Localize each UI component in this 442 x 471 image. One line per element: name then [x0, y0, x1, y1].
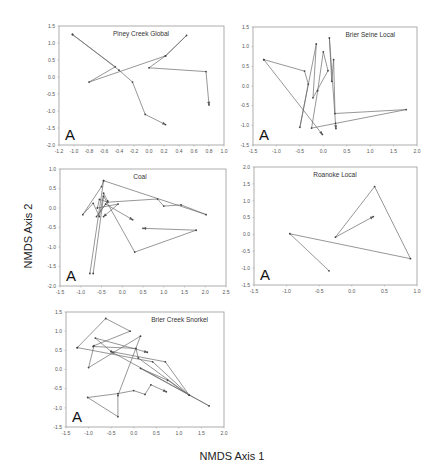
panel-brier-seine-local: -1.5-1.0-0.50.00.51.01.52.01.51.00.50.0-… — [240, 24, 420, 154]
y-tick-label: 1.0 — [48, 40, 55, 46]
data-point — [103, 192, 105, 194]
data-point — [152, 361, 154, 363]
x-tick-label: -0.2 — [130, 148, 139, 154]
data-point — [96, 216, 98, 218]
data-point — [117, 393, 119, 395]
data-point — [133, 390, 135, 392]
data-point — [327, 70, 329, 72]
data-point — [167, 379, 169, 381]
x-tick-label: 2.0 — [414, 148, 421, 154]
y-tick-label: -0.5 — [46, 91, 55, 97]
x-tick-label: 1.0 — [175, 430, 182, 436]
panel-title: Roanoke Local — [313, 171, 357, 178]
data-point — [72, 34, 74, 36]
y-tick-label: -2.0 — [47, 283, 56, 289]
y-tick-label: 1.5 — [242, 24, 249, 30]
x-tick-label: 0.5 — [140, 289, 147, 295]
x-tick-label: 0.0 — [119, 289, 126, 295]
data-point — [117, 203, 119, 205]
data-point — [103, 180, 105, 182]
data-point — [129, 330, 131, 332]
data-point — [188, 394, 190, 396]
data-point — [165, 55, 167, 57]
x-tick-label: -1.2 — [55, 148, 64, 154]
x-tick-label: 0.5 — [153, 430, 160, 436]
x-tick-label: 0.8 — [206, 148, 213, 154]
data-point — [87, 397, 89, 399]
data-point — [299, 126, 301, 128]
y-tick-label: -1.0 — [53, 405, 62, 411]
x-tick-label: -0.5 — [107, 430, 116, 436]
panel-title: Coal — [133, 173, 147, 180]
data-point — [117, 416, 119, 418]
data-point — [410, 258, 412, 260]
x-tick-label: -1.0 — [76, 289, 85, 295]
data-point — [88, 81, 90, 83]
y-tick-label: -2.0 — [46, 142, 55, 148]
y-tick-label: 1.5 — [55, 309, 62, 315]
data-point — [118, 69, 120, 71]
x-axis-label: NMDS Axis 1 — [200, 450, 265, 462]
y-tick-label: 0.0 — [49, 205, 56, 211]
panel-letter: A — [260, 266, 270, 283]
data-point — [180, 204, 182, 206]
x-tick-label: 2.0 — [221, 430, 228, 436]
data-point — [99, 216, 101, 218]
x-tick-label: 2.0 — [202, 289, 209, 295]
panel-title: Brier Seine Local — [346, 31, 396, 38]
x-tick-label: 0.5 — [343, 148, 350, 154]
x-tick-label: -1.0 — [272, 148, 281, 154]
data-point — [328, 270, 330, 272]
data-point — [144, 394, 146, 396]
y-tick-label: -0.5 — [241, 248, 250, 254]
data-point — [92, 273, 94, 275]
data-point — [335, 236, 337, 238]
panel-coal: -1.5-1.0-0.50.00.51.01.52.02.51.00.50.0-… — [47, 166, 229, 295]
data-point — [208, 405, 210, 407]
panel-roanoke-local: -1.5-1.0-0.50.00.51.02.01.51.00.50.0-0.5… — [241, 164, 420, 294]
data-point — [312, 97, 314, 99]
data-point — [195, 229, 197, 231]
y-tick-label: -1.0 — [241, 265, 250, 271]
y-tick-label: -1.5 — [241, 282, 250, 288]
data-point — [105, 203, 107, 205]
data-point — [322, 51, 324, 53]
y-tick-label: 1.5 — [243, 181, 250, 187]
plot-frame — [66, 312, 224, 427]
x-tick-label: -1.0 — [282, 288, 291, 294]
y-tick-label: -1.5 — [46, 125, 55, 131]
x-tick-label: 1.5 — [181, 289, 188, 295]
x-tick-label: 1.5 — [390, 148, 397, 154]
x-tick-label: 0.0 — [320, 148, 327, 154]
panel-letter: A — [65, 126, 75, 143]
y-tick-label: 0.0 — [242, 83, 249, 89]
x-tick-label: 0.0 — [130, 430, 137, 436]
data-point — [164, 361, 166, 363]
y-tick-label: 1.5 — [48, 23, 55, 29]
data-point — [89, 273, 91, 275]
y-tick-label: -1.5 — [47, 263, 56, 269]
data-point — [101, 186, 103, 188]
panel-letter: A — [72, 408, 82, 425]
data-point — [96, 207, 98, 209]
y-tick-label: -1.0 — [46, 108, 55, 114]
data-point — [317, 90, 319, 92]
plot-frame — [254, 167, 417, 285]
x-tick-label: -0.5 — [296, 148, 305, 154]
y-tick-label: 1.0 — [49, 166, 56, 172]
panel-title: Brier Creek Snorkel — [151, 316, 208, 323]
y-tick-label: 1.0 — [55, 328, 62, 334]
x-tick-label: 1.0 — [414, 288, 421, 294]
y-tick-label: 0.5 — [55, 347, 62, 353]
x-tick-label: 1.0 — [367, 148, 374, 154]
x-tick-label: -1.5 — [62, 430, 71, 436]
data-point — [331, 80, 333, 82]
data-point — [304, 70, 306, 72]
x-tick-label: -0.4 — [115, 148, 124, 154]
data-point — [144, 114, 146, 116]
plot-frame — [253, 27, 417, 145]
x-tick-label: -1.5 — [249, 148, 258, 154]
y-tick-label: 0.5 — [243, 214, 250, 220]
data-point — [186, 35, 188, 37]
x-tick-label: 1.0 — [160, 289, 167, 295]
